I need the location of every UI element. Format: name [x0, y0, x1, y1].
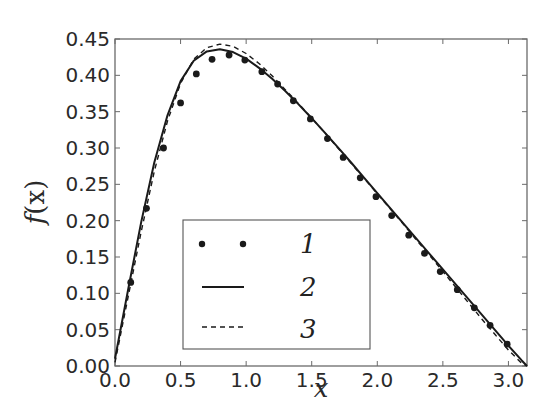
data-point-series-1: [471, 304, 478, 311]
legend-box: [183, 220, 370, 349]
x-tick-label: 3.0: [493, 368, 525, 392]
data-point-series-1: [324, 135, 331, 142]
x-tick-label: 2.0: [361, 368, 393, 392]
data-point-series-1: [127, 279, 134, 286]
y-tick-label: 0.10: [65, 281, 110, 305]
data-point-series-1: [421, 250, 428, 257]
x-tick-label: 1.0: [230, 368, 262, 392]
data-point-series-1: [143, 205, 150, 212]
data-point-series-1: [177, 100, 184, 107]
legend-label-3: 3: [300, 314, 317, 344]
y-tick-label: 0.40: [65, 63, 110, 87]
y-tick-label: 0.00: [65, 354, 110, 378]
y-tick-label: 0.05: [65, 318, 110, 342]
data-point-series-1: [226, 52, 233, 59]
y-axis-label-arg: (x): [20, 180, 50, 215]
x-axis-label: x: [314, 373, 329, 403]
data-point-series-1: [373, 193, 380, 200]
data-point-series-1: [357, 174, 364, 181]
data-point-series-1: [307, 116, 314, 123]
data-point-series-1: [454, 286, 461, 293]
data-point-series-1: [340, 154, 347, 161]
data-point-series-1: [290, 97, 297, 104]
x-tick-label: 2.5: [427, 368, 459, 392]
data-point-series-1: [193, 70, 200, 77]
data-point-series-1: [405, 232, 412, 239]
legend-marker-dot-icon: [199, 241, 205, 247]
y-tick-label: 0.20: [65, 209, 110, 233]
y-tick-label: 0.35: [65, 100, 110, 124]
data-point-series-1: [241, 57, 248, 64]
data-point-series-1: [388, 212, 395, 219]
legend-marker-dot-icon: [240, 241, 246, 247]
svg-text:f(x): f(x): [20, 180, 50, 227]
data-point-series-1: [209, 56, 216, 63]
data-point-series-1: [504, 341, 511, 348]
data-point-series-1: [258, 68, 265, 75]
legend-label-2: 2: [299, 272, 317, 302]
legend-label-1: 1: [300, 229, 317, 259]
data-point-series-1: [160, 145, 167, 152]
legend: 1 2 3: [183, 220, 370, 349]
data-point-series-1: [437, 268, 444, 275]
chart: 0.00.51.01.52.02.53.0 0.000.050.100.150.…: [0, 0, 555, 409]
y-tick-label: 0.15: [65, 245, 110, 269]
data-point-series-1: [274, 81, 281, 88]
y-tick-label: 0.30: [65, 136, 110, 160]
y-tick-label: 0.25: [65, 172, 110, 196]
x-tick-label: 0.5: [165, 368, 197, 392]
y-tick-label: 0.45: [65, 27, 110, 51]
data-point-series-1: [487, 322, 494, 329]
y-axis-label: f(x): [20, 180, 50, 227]
